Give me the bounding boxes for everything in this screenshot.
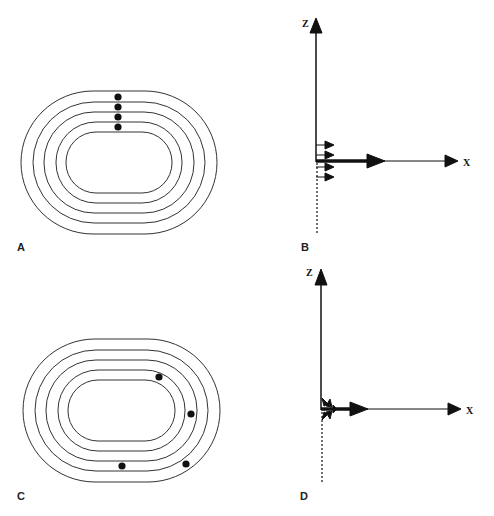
figure: A Z X B C	[0, 0, 494, 516]
axis-label-z-d: Z	[306, 267, 313, 278]
z-arrow-icon	[315, 269, 327, 285]
panel-label-a: A	[17, 241, 25, 253]
axis-label-z-b: Z	[302, 18, 309, 29]
panel-d-axes	[315, 269, 461, 482]
x-arrow-icon	[445, 155, 458, 167]
large-vector-arrow-icon	[367, 154, 385, 168]
axis-label-x-b: X	[463, 157, 471, 168]
panel-label-b: B	[301, 241, 309, 253]
x-arrow-icon	[448, 403, 461, 415]
panel-c-dots	[118, 373, 194, 469]
panel-label-c: C	[17, 490, 25, 502]
axis-label-x-d: X	[466, 405, 474, 416]
panel-b-axes	[310, 18, 458, 235]
z-arrow-icon	[310, 18, 322, 33]
panel-label-d: D	[300, 490, 308, 502]
large-vector-arrow-icon	[350, 402, 368, 416]
panel-a-tracks	[21, 91, 217, 234]
